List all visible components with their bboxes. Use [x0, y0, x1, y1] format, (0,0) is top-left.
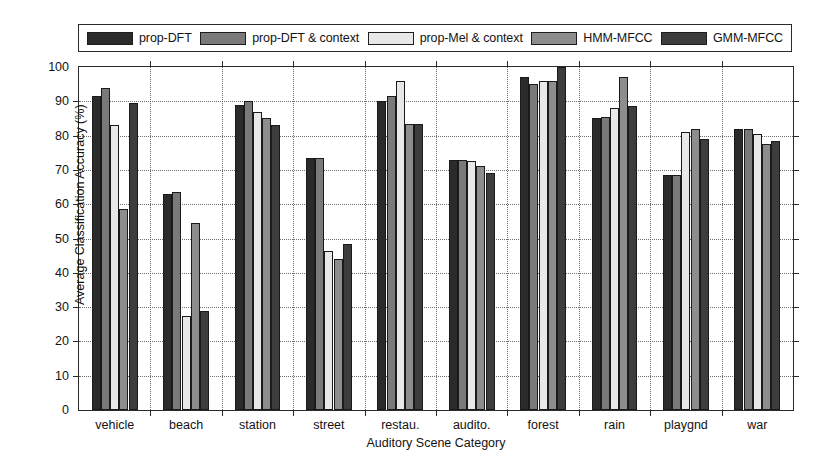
y-tick-mark-right-20 — [793, 341, 799, 342]
x-tick-label-3: street — [313, 418, 344, 432]
bar-restau-HMMMFCC — [405, 124, 414, 410]
x-tick-mark-top-4 — [365, 61, 366, 67]
y-tick-mark-right-80 — [793, 136, 799, 137]
legend-swatch-hmm-mfcc — [531, 32, 577, 45]
bar-restau-propDFT — [377, 101, 386, 410]
x-gridline-8 — [650, 67, 651, 410]
legend-swatch-prop-mel-context — [368, 32, 414, 45]
y-tick-mark-right-40 — [793, 273, 799, 274]
legend-entry-3[interactable]: HMM-MFCC — [531, 31, 652, 45]
legend-label-1: prop-DFT & context — [252, 31, 359, 45]
legend-label-2: prop-Mel & context — [420, 31, 523, 45]
bar-rain-GMMMFCC — [628, 106, 637, 410]
x-axis-title: Auditory Scene Category — [79, 436, 793, 450]
bar-rain-HMMMFCC — [619, 77, 628, 410]
x-gridline-7 — [579, 67, 580, 410]
bar-street-propDFTcontext — [315, 158, 324, 410]
bar-station-propMelcontext — [253, 112, 262, 410]
x-tick-label-6: forest — [527, 418, 558, 432]
legend-entry-0[interactable]: prop-DFT — [87, 31, 192, 45]
y-tick-mark-right-10 — [793, 376, 799, 377]
y-tick-mark-right-30 — [793, 307, 799, 308]
bar-audito-HMMMFCC — [476, 166, 485, 410]
bar-playgnd-propDFT — [663, 175, 672, 410]
x-tick-mark-top-6 — [507, 61, 508, 67]
bar-station-propDFTcontext — [244, 101, 253, 410]
y-tick-label-40: 40 — [55, 266, 69, 280]
legend-entry-1[interactable]: prop-DFT & context — [200, 31, 359, 45]
x-gridline-6 — [507, 67, 508, 410]
legend-swatch-prop-dft-context — [200, 32, 246, 45]
bar-audito-GMMMFCC — [486, 173, 495, 410]
bar-playgnd-GMMMFCC — [700, 139, 709, 410]
y-tick-mark-right-90 — [793, 101, 799, 102]
x-tick-mark-7 — [579, 410, 580, 416]
x-tick-mark-4 — [365, 410, 366, 416]
legend-entry-4[interactable]: GMM-MFCC — [661, 31, 783, 45]
x-tick-mark-3 — [293, 410, 294, 416]
legend-label-4: GMM-MFCC — [713, 31, 783, 45]
legend-entry-2[interactable]: prop-Mel & context — [368, 31, 523, 45]
bar-war-propDFT — [734, 129, 743, 410]
y-tick-mark-right-60 — [793, 204, 799, 205]
legend-label-0: prop-DFT — [139, 31, 192, 45]
bar-playgnd-propDFTcontext — [672, 175, 681, 410]
y-tick-mark-80 — [73, 136, 79, 137]
bar-war-HMMMFCC — [762, 144, 771, 410]
y-tick-label-90: 90 — [55, 94, 69, 108]
bar-forest-propDFTcontext — [529, 84, 538, 410]
x-tick-mark-top-8 — [650, 61, 651, 67]
bar-vehicle-HMMMFCC — [119, 209, 128, 410]
bar-playgnd-propMelcontext — [681, 132, 690, 410]
bar-audito-propMelcontext — [467, 161, 476, 410]
x-tick-mark-top-3 — [293, 61, 294, 67]
y-tick-label-50: 50 — [55, 232, 69, 246]
y-tick-label-80: 80 — [55, 129, 69, 143]
y-tick-mark-50 — [73, 239, 79, 240]
bar-audito-propDFTcontext — [458, 160, 467, 410]
legend-swatch-prop-dft — [87, 32, 133, 45]
bar-vehicle-propDFT — [92, 96, 101, 410]
bar-vehicle-GMMMFCC — [129, 103, 138, 410]
x-tick-label-8: playgnd — [664, 418, 708, 432]
y-tick-mark-right-50 — [793, 239, 799, 240]
y-tick-label-20: 20 — [55, 334, 69, 348]
bar-street-propDFT — [306, 158, 315, 410]
bar-playgnd-HMMMFCC — [691, 129, 700, 410]
bar-rain-propMelcontext — [610, 108, 619, 410]
y-tick-label-10: 10 — [55, 369, 69, 383]
y-tick-mark-40 — [73, 273, 79, 274]
bar-vehicle-propMelcontext — [110, 125, 119, 410]
bar-street-GMMMFCC — [343, 244, 352, 410]
bar-audito-propDFT — [449, 160, 458, 410]
y-tick-mark-70 — [73, 170, 79, 171]
bar-rain-propDFT — [592, 118, 601, 410]
x-tick-label-4: restau. — [381, 418, 419, 432]
bar-beach-GMMMFCC — [200, 311, 209, 410]
x-tick-mark-top-5 — [436, 61, 437, 67]
x-tick-mark-2 — [222, 410, 223, 416]
bar-forest-propMelcontext — [539, 81, 548, 410]
bar-vehicle-propDFTcontext — [101, 88, 110, 410]
bar-station-HMMMFCC — [262, 118, 271, 410]
x-tick-mark-top-1 — [150, 61, 151, 67]
x-gridline-1 — [150, 67, 151, 410]
bar-war-GMMMFCC — [771, 141, 780, 410]
x-tick-mark-1 — [150, 410, 151, 416]
chart-legend: prop-DFTprop-DFT & contextprop-Mel & con… — [78, 24, 792, 52]
x-tick-label-9: war — [747, 418, 767, 432]
bar-station-GMMMFCC — [271, 125, 280, 410]
bar-rain-propDFTcontext — [601, 117, 610, 410]
x-tick-label-0: vehicle — [95, 418, 134, 432]
x-tick-mark-8 — [650, 410, 651, 416]
bar-war-propDFTcontext — [744, 129, 753, 410]
y-tick-mark-20 — [73, 341, 79, 342]
bar-restau-propMelcontext — [396, 81, 405, 410]
x-gridline-4 — [365, 67, 366, 410]
bar-station-propDFT — [235, 105, 244, 410]
x-tick-label-7: rain — [604, 418, 625, 432]
x-tick-label-2: station — [239, 418, 276, 432]
bar-street-propMelcontext — [324, 251, 333, 410]
x-tick-mark-5 — [436, 410, 437, 416]
x-gridline-9 — [722, 67, 723, 410]
